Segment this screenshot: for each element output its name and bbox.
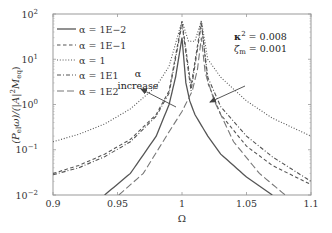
x-tick-labels: 0.90.9511.051.1 (45, 198, 318, 209)
kappa-annotation: κ2 = 0.008 (234, 30, 287, 42)
zeta-annotation: ζm = 0.001 (234, 43, 287, 56)
legend-label-4: α = 1E2 (79, 86, 118, 97)
legend-label-1: α = 1E−1 (79, 40, 126, 51)
legend-label-3: α = 1E1 (79, 70, 118, 81)
x-tick-label: 0.9 (45, 198, 60, 209)
legend: α = 1E−2α = 1E−1α = 1α = 1E1α = 1E2 (57, 24, 126, 97)
y-tick-label: 10−1 (16, 143, 38, 155)
y-tick-label: 100 (21, 98, 38, 110)
y-axis-label: (Pelω)/(|A|2Meq) (9, 66, 23, 144)
legend-label-2: α = 1 (79, 55, 105, 66)
x-tick-label: 1.1 (303, 198, 318, 209)
curve-series-4 (119, 38, 285, 195)
legend-label-0: α = 1E−2 (79, 24, 126, 35)
y-tick-label: 10−2 (16, 189, 38, 201)
x-axis-label: Ω (178, 213, 186, 224)
alpha-annotation: α (135, 68, 142, 79)
curve-series-0 (105, 38, 273, 195)
y-tick-label: 101 (21, 53, 38, 65)
x-tick-label: 0.95 (107, 198, 128, 209)
chart-figure: 0.90.9511.051.1 10−210−1100101102 α = 1E… (0, 0, 332, 233)
y-tick-label: 102 (21, 8, 38, 20)
x-tick-label: 1 (179, 198, 185, 209)
x-tick-label: 1.05 (236, 198, 257, 209)
increase-annotation: increase (118, 80, 159, 91)
